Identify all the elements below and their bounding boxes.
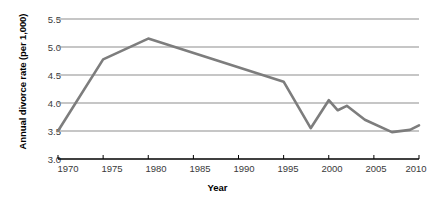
divorce-rate-line-chart: Annual divorce rate (per 1,000) Year 5.5… [0, 0, 435, 205]
data-series-line [58, 39, 419, 133]
plot-area [0, 0, 435, 205]
gridlines [58, 19, 419, 131]
